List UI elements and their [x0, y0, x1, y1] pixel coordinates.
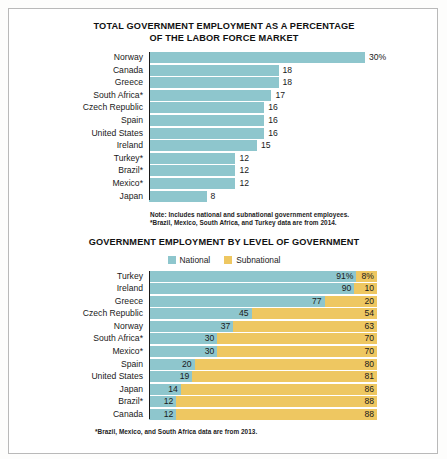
chart1-bar: [149, 140, 257, 151]
chart2-value-label-national: 90: [328, 283, 351, 294]
chart1-bar: [149, 165, 235, 176]
chart2-bar-subnational: [192, 371, 377, 382]
chart2-category-label: Canada: [9, 409, 149, 420]
chart2-category-label: South Africa*: [9, 333, 149, 344]
chart2-row: Mexico*3070: [9, 346, 439, 357]
chart2-plot-area: 9010: [149, 283, 439, 294]
chart1-notes: Note: Includes national and subnational …: [150, 211, 439, 228]
chart2-value-label-subnational: 81: [351, 371, 374, 382]
chart2-value-label-national: 12: [150, 409, 173, 420]
chart1-bar: [149, 90, 271, 101]
chart2-plot-area: 3070: [149, 333, 439, 344]
chart2-row: Norway3763: [9, 321, 439, 332]
chart1-bar: [149, 77, 279, 88]
chart2-plot-area: 91%8%: [149, 271, 439, 282]
chart2-plot-area: 2080: [149, 359, 439, 370]
chart2-value-label-subnational: 70: [351, 333, 374, 344]
chart1-row: Mexico*12: [9, 178, 439, 189]
chart2-legend: National Subnational: [9, 255, 439, 265]
chart2-bar-subnational: [176, 396, 377, 407]
chart2-plot-area: 3763: [149, 321, 439, 332]
chart1-plot-area: 12: [149, 153, 439, 164]
chart1-plot-area: 17: [149, 90, 439, 101]
chart2-axis-line: [149, 271, 150, 419]
chart2-row: Brazil*1288: [9, 396, 439, 407]
chart2-value-label-national: 77: [299, 296, 322, 307]
chart2-value-label-subnational: 54: [351, 308, 374, 319]
chart1-plot-area: 18: [149, 65, 439, 76]
chart1-row: Spain16: [9, 115, 439, 126]
chart2-row: Greece7720: [9, 296, 439, 307]
chart2-row: Japan1486: [9, 384, 439, 395]
chart2-value-label-national: 30: [191, 346, 214, 357]
chart2-value-label-subnational: 86: [351, 384, 374, 395]
chart1-plot-area: 16: [149, 128, 439, 139]
chart2-bar-subnational: [181, 384, 377, 395]
chart1-axis-line: [149, 52, 150, 200]
chart2-row: Ireland9010: [9, 283, 439, 294]
chart1-row: Turkey*12: [9, 153, 439, 164]
chart1-category-label: Ireland: [9, 140, 149, 151]
chart2-category-label: Czech Republic: [9, 308, 149, 319]
chart1-plot-area: 15: [149, 140, 439, 151]
chart1-category-label: Greece: [9, 77, 149, 88]
chart1-category-label: Turkey*: [9, 153, 149, 164]
chart2-value-label-national: 12: [150, 396, 173, 407]
chart1-value-label: 16: [268, 102, 278, 113]
chart1-bar: [149, 153, 235, 164]
chart1-value-label: 12: [239, 153, 249, 164]
chart1-plot-area: 12: [149, 165, 439, 176]
chart2-value-label-subnational: 70: [351, 346, 374, 357]
chart2-category-label: Turkey: [9, 271, 149, 282]
chart1-category-label: Spain: [9, 115, 149, 126]
chart1-category-label: Norway: [9, 52, 149, 63]
chart2-value-label-subnational: 8%: [351, 271, 374, 282]
chart1-bar: [149, 128, 264, 139]
chart1-row: Greece18: [9, 77, 439, 88]
chart1-row: Canada18: [9, 65, 439, 76]
chart2-value-label-national: 45: [226, 308, 249, 319]
chart1-bar: [149, 102, 264, 113]
chart1-row: South Africa*17: [9, 90, 439, 101]
chart2-row: Turkey91%8%: [9, 271, 439, 282]
legend-label-national: National: [180, 255, 211, 265]
chart2-bar-rows: Turkey91%8%Ireland9010Greece7720Czech Re…: [9, 271, 439, 421]
chart1-row: Japan8: [9, 191, 439, 202]
chart1-note-line-1: Note: Includes national and subnational …: [150, 211, 439, 220]
chart2-value-label-national: 37: [207, 321, 230, 332]
chart2-row: Czech Republic4554: [9, 308, 439, 319]
chart1-bar: [149, 191, 207, 202]
chart1-bar: [149, 178, 235, 189]
page-background: TOTAL GOVERNMENT EMPLOYMENT AS A PERCENT…: [0, 0, 447, 459]
legend-item-national: National: [168, 255, 211, 265]
chart1-bar: [149, 65, 279, 76]
chart2-category-label: Brazil*: [9, 396, 149, 407]
chart1-plot-area: 18: [149, 77, 439, 88]
chart1-value-label: 12: [239, 178, 249, 189]
chart1-plot-area: 30%: [149, 52, 439, 63]
chart2-value-label-national: 20: [169, 359, 192, 370]
chart1-plot-area: 16: [149, 115, 439, 126]
chart2-bar-national: [149, 271, 356, 282]
legend-item-subnational: Subnational: [224, 255, 280, 265]
chart1-title-line2: OF THE LABOR FORCE MARKET: [9, 33, 439, 45]
chart1-row: Ireland15: [9, 140, 439, 151]
chart2-category-label: United States: [9, 371, 149, 382]
chart1-value-label: 8: [211, 191, 216, 202]
chart2-bar-subnational: [176, 409, 377, 420]
chart2-value-label-subnational: 80: [351, 359, 374, 370]
chart1-value-label: 17: [275, 90, 285, 101]
chart1-bar-rows: Norway30%Canada18Greece18South Africa*17…: [9, 52, 439, 202]
chart1-category-label: United States: [9, 128, 149, 139]
chart2-value-label-subnational: 63: [351, 321, 374, 332]
legend-label-subnational: Subnational: [236, 255, 280, 265]
chart1-category-label: Japan: [9, 191, 149, 202]
chart2-value-label-national: 30: [191, 333, 214, 344]
chart1-value-label: 18: [283, 77, 293, 88]
chart1-title: TOTAL GOVERNMENT EMPLOYMENT AS A PERCENT…: [9, 21, 439, 44]
chart1-category-label: Canada: [9, 65, 149, 76]
chart1-category-label: Brazil*: [9, 165, 149, 176]
chart2-title: GOVERNMENT EMPLOYMENT BY LEVEL OF GOVERN…: [9, 237, 439, 249]
chart2-plot-area: 3070: [149, 346, 439, 357]
chart2-plot-area: 1486: [149, 384, 439, 395]
